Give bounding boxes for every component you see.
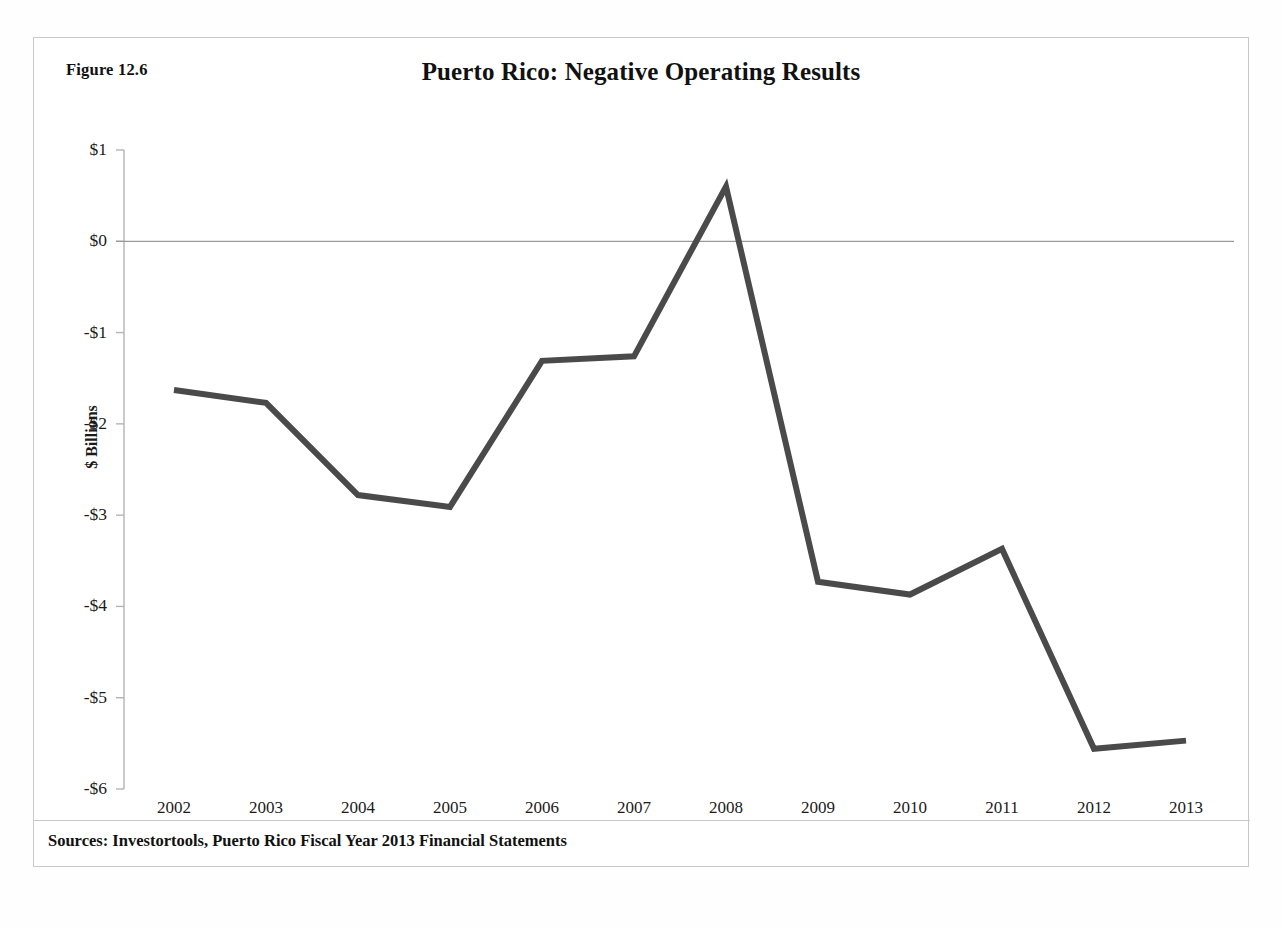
x-axis-tick-label: 2011 <box>956 798 1048 818</box>
x-axis-tick-label: 2012 <box>1048 798 1140 818</box>
data-series-group <box>174 187 1186 749</box>
x-axis-tick-label: 2010 <box>864 798 956 818</box>
figure-frame: Figure 12.6 Puerto Rico: Negative Operat… <box>33 37 1249 867</box>
figure-page: Figure 12.6 Puerto Rico: Negative Operat… <box>0 0 1282 927</box>
y-axis-tick-label: -$5 <box>34 687 107 708</box>
line-chart-svg <box>34 38 1250 868</box>
x-axis-tick-label: 2003 <box>220 798 312 818</box>
data-line-operating-results <box>174 187 1186 749</box>
x-axis-tick-label: 2002 <box>128 798 220 818</box>
y-axis-tick-label: -$6 <box>34 778 107 799</box>
y-axis-tick-label: $1 <box>34 139 107 160</box>
x-axis-tick-label: 2006 <box>496 798 588 818</box>
y-axis-tick-label: -$4 <box>34 595 107 616</box>
x-axis-tick-label: 2007 <box>588 798 680 818</box>
y-axis-title: $ Billions <box>83 357 101 517</box>
axis-group <box>116 150 124 789</box>
source-divider <box>34 820 1250 821</box>
y-axis-tick-label: -$1 <box>34 322 107 343</box>
x-axis-tick-label: 2008 <box>680 798 772 818</box>
x-axis-tick-label: 2005 <box>404 798 496 818</box>
y-axis-tick-label: $0 <box>34 230 107 251</box>
x-axis-tick-label: 2013 <box>1140 798 1232 818</box>
source-note: Sources: Investortools, Puerto Rico Fisc… <box>48 831 567 851</box>
chart-plot-area: $1$0-$1-$2-$3-$4-$5-$6 20022003200420052… <box>34 38 1250 868</box>
x-axis-tick-label: 2009 <box>772 798 864 818</box>
x-axis-tick-label: 2004 <box>312 798 404 818</box>
